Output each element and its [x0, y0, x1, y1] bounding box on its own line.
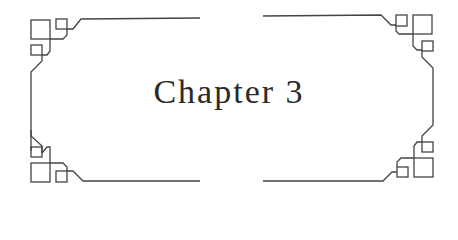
corner-ornament-bottom-left	[31, 130, 200, 182]
corner-ornament-bottom-right	[263, 142, 433, 181]
chapter-title: Chapter 3	[0, 72, 458, 112]
